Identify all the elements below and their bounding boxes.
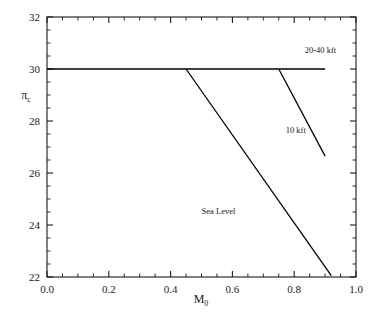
y-tick-label: 28 [29,115,41,127]
chart-figure: 0.00.20.40.60.81.0 222426283032 20-40 kf… [0,0,374,322]
y-axis-title-subscript: c [27,95,31,104]
y-tick-label: 24 [29,219,41,231]
annotation-label: Sea Level [202,206,236,216]
x-axis-title: M0 [194,292,209,308]
curve-annotations: 20-40 kft10 kftSea Level [202,45,337,216]
x-tick-label: 0.2 [102,283,116,295]
annotation-label: 20-40 kft [305,45,337,55]
y-tick-label: 22 [29,271,40,283]
x-axis-title-subscript: 0 [204,299,208,308]
x-tick-label: 0.4 [164,283,178,295]
y-axis-title: πc [21,88,31,104]
y-axis-tick-labels: 222426283032 [29,11,41,283]
line-chart-canvas: 0.00.20.40.60.81.0 222426283032 20-40 kf… [0,0,374,322]
plot-frame [47,17,356,277]
annotation-label: 10 kft [286,125,307,135]
x-axis-title-main: M [194,292,205,306]
y-tick-label: 26 [29,167,41,179]
series-line-10-kft [279,69,325,156]
y-tick-label: 30 [29,63,41,75]
data-series-group [47,69,331,276]
series-line-sea-level [186,69,331,276]
x-tick-label: 0.8 [287,283,301,295]
y-tick-label: 32 [29,11,40,23]
x-tick-label: 0.0 [40,283,54,295]
axis-ticks [47,17,356,277]
x-tick-label: 0.6 [226,283,240,295]
x-tick-label: 1.0 [349,283,363,295]
